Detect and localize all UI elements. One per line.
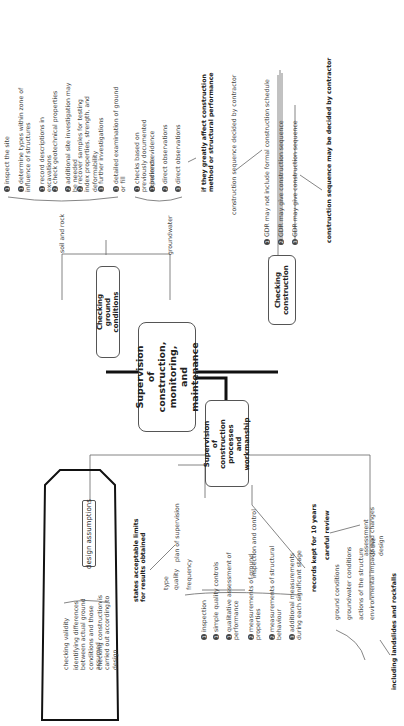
priority-2-icon: 2	[77, 186, 83, 192]
item-text: determine types within zone of influence…	[17, 88, 31, 192]
item-text: GDR may give construction sequence	[277, 120, 284, 237]
list-item[interactable]: 2direct observations	[161, 112, 168, 192]
list-item[interactable]: 1indirect evidence	[148, 112, 155, 192]
node-checking-construction[interactable]: Checking construction	[268, 255, 296, 325]
list-item[interactable]: 3detailed examination of ground or fill	[112, 82, 127, 192]
list-item[interactable]: 1qualitative assessment of performance	[225, 540, 240, 640]
item-text: check geotechnical properties	[51, 91, 58, 184]
list-item[interactable]: quality	[172, 569, 179, 590]
item-text: direct observations	[174, 125, 181, 184]
list-item[interactable]: type	[162, 576, 169, 590]
list-item[interactable]: 2recover samples for testing index prope…	[76, 82, 98, 192]
item-text: measurements of ground properties	[247, 554, 261, 640]
list-item[interactable]: checking construction is carried out acc…	[96, 580, 118, 670]
priority-2-icon: 2	[52, 186, 58, 192]
priority-1-icon: 1	[213, 634, 219, 640]
label-groundwater: groundwater	[166, 215, 173, 255]
priority-2-icon: 2	[162, 186, 168, 192]
priority-1-icon: 1	[39, 186, 45, 192]
item-text: simple quality controls	[212, 562, 219, 632]
item-text: GDR may not include formal construction …	[263, 79, 270, 237]
priority-2-icon: 2	[278, 239, 284, 245]
note-affect-construction: if they greatly affect construction meth…	[200, 72, 215, 192]
priority-3-icon: 3	[292, 239, 298, 245]
item-text: GDR may give construction sequence	[291, 120, 298, 237]
item-text: inspection	[200, 600, 207, 632]
list-item[interactable]: 3additional measurements during each sig…	[288, 540, 303, 640]
label-soil-and-rock: soil and rock	[58, 214, 65, 253]
list-item[interactable]: 1simple quality controls	[212, 540, 219, 640]
list-item[interactable]: 2check geotechnical properties	[51, 82, 58, 192]
list-item[interactable]: 2GDR may give construction sequence	[277, 120, 284, 245]
priority-3-icon: 3	[289, 634, 295, 640]
node-workmanship[interactable]: Supervision of construction processes an…	[205, 400, 249, 487]
list-item[interactable]: 2measurements of structural behaviour	[268, 540, 283, 640]
note-landslides: including landslides and rockfalls	[390, 573, 397, 690]
list-item[interactable]: 3direct observations	[174, 112, 181, 192]
item-text: detailed examination of ground or fill	[112, 87, 126, 192]
list-item[interactable]: 3GDR may give construction sequence	[291, 120, 298, 245]
list-item[interactable]: frequency	[185, 559, 192, 590]
note-sequence-decided: construction sequence decided by contrac…	[230, 75, 237, 215]
priority-2-icon: 2	[269, 634, 275, 640]
note-sequence-may-be-decided: construction sequence may be decided by …	[325, 58, 332, 243]
priority-1-icon: 1	[134, 186, 140, 192]
item-text: qualitative assessment of performance	[225, 553, 239, 640]
node-checking-ground-conditions[interactable]: Checking ground conditions	[96, 266, 120, 358]
list-item[interactable]: ground conditions	[333, 564, 340, 620]
priority-1-icon: 1	[4, 186, 10, 192]
priority-1-icon: 1	[226, 634, 232, 640]
priority-1-icon: 1	[18, 186, 24, 192]
note-records-kept: records kept for 10 years	[310, 504, 317, 592]
node-design-assumptions[interactable]: design assumptions	[82, 500, 96, 567]
priority-1-icon: 1	[149, 186, 155, 192]
item-text: measurements of structural behaviour	[268, 546, 282, 640]
list-item[interactable]: 1GDR may not include formal construction…	[263, 79, 270, 245]
list-item[interactable]: checking validity	[62, 580, 69, 670]
central-topic[interactable]: Supervision of construction, monitoring,…	[138, 322, 196, 432]
list-item[interactable]: groundwater conditions	[345, 547, 352, 620]
list-item[interactable]: 1determine types within zone of influenc…	[17, 82, 32, 192]
priority-1-icon: 1	[264, 239, 270, 245]
note-careful-review: careful review	[323, 510, 330, 560]
list-item[interactable]: environmental impacts and changes	[368, 507, 375, 620]
item-text: further investigations	[97, 117, 104, 184]
priority-3-icon: 3	[113, 186, 119, 192]
priority-1-icon: 1	[201, 634, 207, 640]
list-item[interactable]: actions of the structure	[357, 548, 364, 620]
item-text: additional measurements during each sign…	[288, 550, 302, 640]
priority-3-icon: 3	[175, 186, 181, 192]
list-item[interactable]: 2measurements of ground properties	[247, 540, 262, 640]
item-text: inspect the site	[3, 136, 10, 184]
item-text: recover samples for testing index proper…	[76, 96, 98, 192]
item-text: direct observations	[161, 125, 168, 184]
priority-3-icon: 3	[98, 186, 104, 192]
list-item[interactable]: 1inspection	[200, 540, 207, 640]
item-text: indirect evidence	[148, 131, 155, 184]
list-item[interactable]: 1inspect the site	[3, 82, 10, 192]
label-plan-of-supervision: plan of supervision	[173, 503, 180, 562]
priority-2-icon: 2	[248, 634, 254, 640]
list-item[interactable]: 3further investigations	[97, 82, 104, 192]
note-acceptable-limits: states acceptable limits for results obt…	[132, 512, 147, 602]
priority-2-icon: 2	[65, 186, 71, 192]
